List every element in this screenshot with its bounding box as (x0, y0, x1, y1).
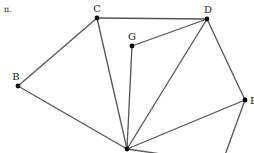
edge-d-a (127, 19, 207, 149)
edge-partial-1 (127, 149, 168, 153)
vertex-a (125, 147, 130, 152)
edge-c-d (97, 18, 207, 19)
edge-e-a (127, 100, 245, 149)
edge-b-a (18, 86, 127, 149)
vertex-label-g: G (128, 31, 136, 42)
vertex-b (16, 84, 21, 89)
vertex-e (243, 98, 248, 103)
vertex-label-b: B (12, 71, 19, 82)
graph-diagram: ii. CDGBE (0, 0, 254, 153)
vertex-label-e: E (250, 95, 254, 106)
edge-b-c (18, 18, 97, 86)
figure-label: ii. (4, 5, 12, 14)
edge-g-d (132, 19, 207, 46)
vertex-g (130, 44, 135, 49)
vertex-label-d: D (204, 4, 212, 15)
vertex-c (95, 16, 100, 21)
edge-partial-0 (225, 100, 245, 153)
vertex-label-c: C (93, 3, 101, 14)
edge-d-e (207, 19, 245, 100)
vertex-d (205, 17, 210, 22)
edge-g-a (127, 46, 132, 149)
edge-c-a (97, 18, 127, 149)
